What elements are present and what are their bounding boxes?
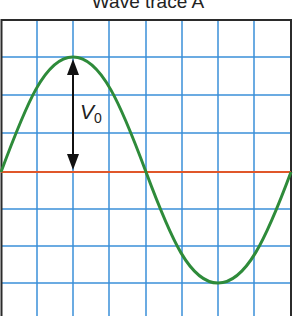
wave-diagram — [0, 0, 296, 316]
amplitude-label: V0 — [80, 100, 102, 126]
amplitude-arrow — [67, 59, 79, 170]
